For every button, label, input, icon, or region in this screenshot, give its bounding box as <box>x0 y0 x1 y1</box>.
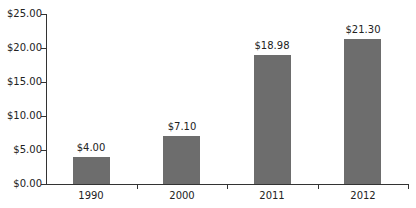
x-tick-label: 2012 <box>333 190 393 201</box>
value-label: $4.00 <box>61 142 121 153</box>
y-tick-label: $15.00 <box>7 77 42 87</box>
x-tick <box>227 184 228 189</box>
x-tick <box>318 184 319 189</box>
bar-1990 <box>73 157 110 184</box>
x-tick-label: 2000 <box>152 190 212 201</box>
value-label: $7.10 <box>152 121 212 132</box>
x-tick-label: 2011 <box>242 190 302 201</box>
bar-2011 <box>254 55 291 184</box>
x-tick-label: 1990 <box>61 190 121 201</box>
x-tick <box>408 184 409 189</box>
y-tick-label: $10.00 <box>7 111 42 121</box>
y-tick-label: $5.00 <box>13 145 42 155</box>
y-tick-label: $20.00 <box>7 43 42 53</box>
y-tick-label: $0.00 <box>13 179 42 189</box>
value-label: $21.30 <box>333 24 393 35</box>
bar-2012 <box>344 39 381 184</box>
y-axis <box>46 14 47 185</box>
x-tick <box>137 184 138 189</box>
value-label: $18.98 <box>242 40 302 51</box>
bar-2000 <box>163 136 200 184</box>
y-tick-label: $25.00 <box>7 9 42 19</box>
bar-chart: $0.00$5.00$10.00$15.00$20.00$25.00 $4.00… <box>0 0 416 208</box>
